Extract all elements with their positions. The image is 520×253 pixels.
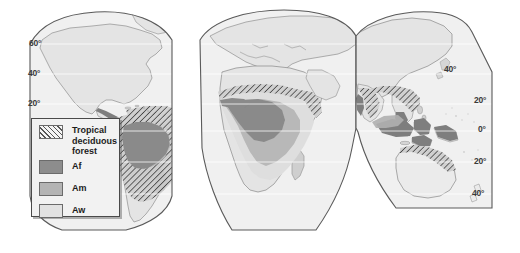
lat-label-right-40-south: 40° [472,188,484,198]
legend-label-am: Am [72,182,87,195]
legend-label-aw: Aw [72,204,85,217]
lat-label-right-20-north: 20° [474,95,486,105]
lat-label-right-0: 0° [478,124,486,134]
world-climate-map: 60° 40° 20° 40° 20° 0° 20° 40° Tropical … [0,0,520,253]
lat-label-left-60: 60° [29,38,41,48]
lat-label-left-40: 40° [28,68,40,78]
legend-item-aw: Aw [39,204,85,218]
legend-swatch-af [39,160,63,174]
legend-swatch-aw [39,204,63,218]
lat-label-left-20: 20° [28,98,40,108]
map-legend: Tropical deciduous forest Af Am Aw [31,118,120,217]
lat-label-right-40-north: 40° [444,64,456,74]
legend-swatch-am [39,182,63,196]
legend-swatch-tropical-deciduous-forest [39,125,63,139]
legend-item-am: Am [39,182,87,196]
legend-item-af: Af [39,160,82,174]
legend-label-tropical-deciduous-forest: Tropical deciduous forest [72,125,117,157]
legend-label-af: Af [72,160,82,173]
legend-item-tropical-deciduous-forest: Tropical deciduous forest [39,125,117,157]
lat-label-right-20-south: 20° [474,156,486,166]
